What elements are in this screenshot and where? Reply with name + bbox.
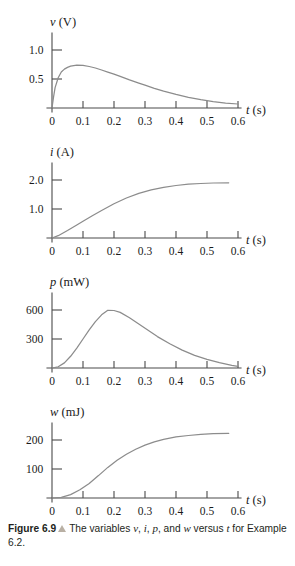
x-ticklabel-0.6: 0.6	[231, 505, 246, 517]
triangle-up-icon	[58, 525, 66, 532]
labels-voltage: v (V) t (s) 1.0 0.5 0 0.1 0.2 0.3 0.4 0.…	[29, 15, 266, 127]
y-ticklabel-600: 600	[26, 304, 44, 316]
y-ticklabel-1.0: 1.0	[29, 44, 44, 56]
y-ticklabel-2.0: 2.0	[29, 174, 44, 186]
x-ticklabel-0.3: 0.3	[138, 115, 153, 127]
y-ticklabel-1.0: 1.0	[29, 203, 44, 215]
axes-voltage	[47, 33, 241, 112]
figure-caption: Figure 6.9The variables v, i, p, and w v…	[8, 521, 288, 550]
caption-text-lead: The variables	[69, 523, 133, 534]
figure-6-9: v (V) t (s) 1.0 0.5 0 0.1 0.2 0.3 0.4 0.…	[0, 0, 295, 566]
x-ticklabel-0.6: 0.6	[231, 115, 246, 127]
y-axis-title: w (mJ)	[50, 405, 84, 419]
x-ticklabel-0.2: 0.2	[107, 375, 122, 387]
chart-voltage: v (V) t (s) 1.0 0.5 0 0.1 0.2 0.3 0.4 0.…	[0, 8, 295, 138]
y-ticklabel-100: 100	[26, 463, 44, 475]
curve-power	[52, 310, 238, 368]
caption-sep-3: , and	[158, 523, 184, 534]
x-ticklabel-0.6: 0.6	[231, 245, 246, 257]
x-axis-title: t (s)	[246, 103, 266, 117]
axes-energy	[47, 423, 241, 502]
x-ticklabel-0: 0	[49, 375, 55, 387]
y-ticklabel-0.5: 0.5	[29, 73, 44, 85]
figure-number: Figure 6.9	[8, 523, 56, 534]
x-ticklabel-0: 0	[49, 115, 55, 127]
x-ticklabel-0.5: 0.5	[200, 375, 215, 387]
x-ticklabel-0.1: 0.1	[76, 375, 91, 387]
x-ticklabel-0.6: 0.6	[231, 375, 246, 387]
curve-energy	[52, 433, 229, 498]
x-ticklabel-0: 0	[49, 505, 55, 517]
x-ticklabel-0.4: 0.4	[169, 505, 184, 517]
chart-energy: w (mJ) t (s) 200 100 0 0.1 0.2 0.3 0.4 0…	[0, 398, 295, 528]
chart-current: i (A) t (s) 2.0 1.0 0 0.1 0.2 0.3 0.4 0.…	[0, 138, 295, 268]
x-ticklabel-0.3: 0.3	[138, 245, 153, 257]
x-ticklabel-0.5: 0.5	[200, 115, 215, 127]
labels-energy: w (mJ) t (s) 200 100 0 0.1 0.2 0.3 0.4 0…	[26, 405, 266, 517]
x-ticklabel-0.4: 0.4	[169, 245, 184, 257]
x-ticklabel-0.3: 0.3	[138, 505, 153, 517]
axes-current	[47, 163, 241, 242]
x-ticklabel-0.3: 0.3	[138, 375, 153, 387]
labels-power: p (mW) t (s) 600 300 0 0.1 0.2 0.3 0.4 0…	[26, 275, 266, 387]
x-ticklabel-0.1: 0.1	[76, 245, 91, 257]
x-ticklabel-0.4: 0.4	[169, 375, 184, 387]
x-ticklabel-0.2: 0.2	[107, 115, 122, 127]
x-ticklabel-0: 0	[49, 245, 55, 257]
x-ticklabel-0.5: 0.5	[200, 505, 215, 517]
labels-current: i (A) t (s) 2.0 1.0 0 0.1 0.2 0.3 0.4 0.…	[29, 145, 266, 257]
x-ticklabel-0.1: 0.1	[76, 115, 91, 127]
x-axis-title: t (s)	[246, 233, 266, 247]
y-ticklabel-300: 300	[26, 333, 44, 345]
x-ticklabel-0.2: 0.2	[107, 505, 122, 517]
x-axis-title: t (s)	[246, 493, 266, 507]
x-axis-title: t (s)	[246, 363, 266, 377]
y-axis-title: i (A)	[50, 145, 74, 159]
caption-text-versus: versus	[191, 523, 227, 534]
chart-power: p (mW) t (s) 600 300 0 0.1 0.2 0.3 0.4 0…	[0, 268, 295, 398]
x-ticklabel-0.2: 0.2	[107, 245, 122, 257]
x-ticklabel-0.4: 0.4	[169, 115, 184, 127]
x-ticklabel-0.1: 0.1	[76, 505, 91, 517]
y-axis-title: p (mW)	[49, 275, 89, 289]
y-ticklabel-200: 200	[26, 434, 44, 446]
caption-var-w: w	[183, 522, 190, 534]
y-axis-title: v (V)	[50, 15, 76, 29]
x-ticklabel-0.5: 0.5	[200, 245, 215, 257]
curve-current	[52, 183, 229, 238]
